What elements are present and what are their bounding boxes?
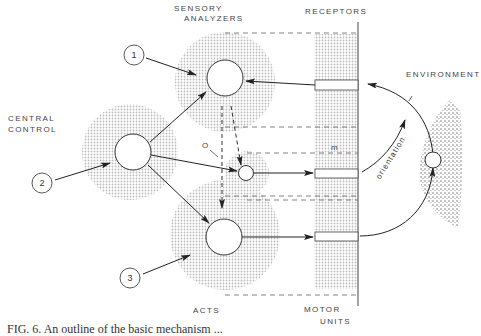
environment-object [425,152,441,168]
label-acts: ACTS [193,306,220,315]
label-sensory: SENSORY [174,4,223,13]
input-3-label: 3 [120,268,140,288]
label-motor: MOTOR [304,305,341,314]
motor-box-orientation [315,169,358,178]
receptor-motor-strip [314,34,358,289]
label-analyzers: ANALYZERS [184,14,244,23]
label-central: CENTRAL [8,114,55,123]
sensory-analyzer-node [207,60,243,96]
figure-caption: FIG. 6. An outline of the basic mechanis… [7,322,223,336]
motor-box-acts [315,232,358,241]
label-environment: ENVIRONMENT [406,70,481,79]
label-control: CONTROL [8,125,57,134]
label-receptors: RECEPTORS [305,7,367,16]
input-1-label: 1 [124,45,144,65]
receptor-box-1 [315,80,358,90]
input-2-label: 2 [32,173,52,193]
label-o-marker: O [202,141,208,150]
central-control-node [115,134,151,170]
acts-node [206,219,242,255]
orientation-node [239,166,254,181]
label-m-marker: m [331,143,338,152]
label-units: UNITS [320,317,351,326]
behavior-mechanism-diagram [0,0,481,336]
